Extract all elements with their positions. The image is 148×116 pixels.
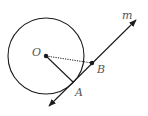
geometry-diagram: O A B m [0, 0, 148, 116]
label-b: B [96, 63, 105, 76]
point-o [44, 54, 48, 58]
label-a: A [74, 86, 83, 99]
label-o: O [32, 46, 41, 59]
label-m: m [122, 9, 132, 22]
segment-oa [46, 56, 73, 82]
point-b [90, 61, 94, 65]
